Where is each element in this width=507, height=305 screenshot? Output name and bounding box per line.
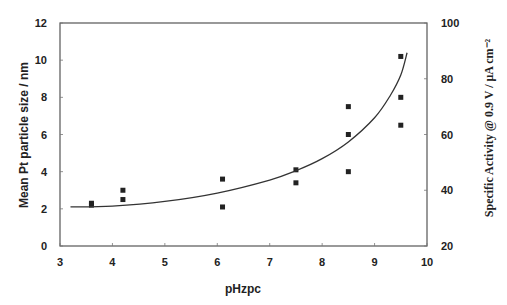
- y-tick-label: 2: [41, 203, 47, 215]
- y2-tick-label: 80: [441, 73, 453, 85]
- data-point: [346, 104, 351, 109]
- y-tick-label: 0: [41, 240, 47, 252]
- x-tick-label: 7: [267, 256, 273, 268]
- fit-curve: [70, 53, 407, 207]
- data-point: [293, 180, 298, 185]
- y-tick-label: 8: [41, 91, 47, 103]
- x-axis-title: pHzpc: [225, 282, 261, 296]
- data-point: [346, 169, 351, 174]
- y-tick-label: 6: [41, 129, 47, 141]
- y-tick-label: 4: [41, 166, 48, 178]
- x-tick-label: 3: [57, 256, 63, 268]
- x-tick-label: 5: [162, 256, 168, 268]
- y2-tick-label: 20: [441, 240, 453, 252]
- y2-tick-label: 40: [441, 184, 453, 196]
- y-tick-label: 10: [35, 54, 47, 66]
- data-point: [398, 54, 403, 59]
- y2-tick-label: 100: [441, 17, 459, 29]
- x-tick-label: 10: [421, 256, 433, 268]
- data-point: [220, 177, 225, 182]
- data-point: [89, 201, 94, 206]
- y-tick-label: 12: [35, 17, 47, 29]
- data-point: [346, 132, 351, 137]
- y2-tick-label: 60: [441, 129, 453, 141]
- data-point: [398, 123, 403, 128]
- plot-frame: [60, 23, 427, 246]
- x-tick-label: 6: [214, 256, 220, 268]
- data-point: [220, 204, 225, 209]
- data-marks: [70, 53, 407, 210]
- data-point: [120, 188, 125, 193]
- axes: 34567891002468101220406080100: [35, 17, 460, 268]
- chart: 34567891002468101220406080100 pHzpc Mean…: [0, 0, 507, 305]
- x-tick-label: 9: [372, 256, 378, 268]
- data-point: [398, 95, 403, 100]
- y-axis-title: Mean Pt particle size / nm: [17, 62, 31, 208]
- x-tick-label: 8: [319, 256, 325, 268]
- y2-axis-title: Specific Activity @ 0.9 V / μA cm⁻²: [482, 38, 496, 217]
- x-tick-label: 4: [109, 256, 116, 268]
- data-point: [120, 197, 125, 202]
